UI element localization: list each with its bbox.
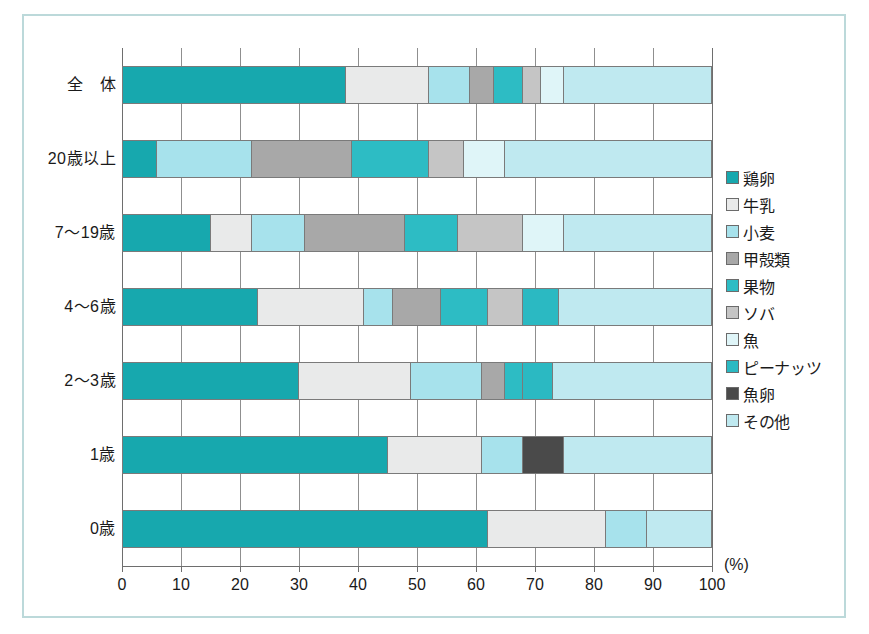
bar-row <box>122 140 712 178</box>
bar-segment <box>523 362 553 400</box>
legend-item[interactable]: 魚 <box>726 326 846 353</box>
bar-segment <box>523 436 564 474</box>
stacked-bar <box>122 362 712 400</box>
tick-80 <box>594 566 595 572</box>
bar-segment <box>488 510 606 548</box>
legend-swatch-icon <box>726 198 739 211</box>
tick-70 <box>535 566 536 572</box>
legend-label: 果物 <box>743 274 774 298</box>
y-axis-labels: 全 体20歳以上7～19歳4～6歳2～3歳1歳0歳 <box>24 48 116 566</box>
bar-segment <box>122 288 258 326</box>
bar-row <box>122 362 712 400</box>
legend-swatch-icon <box>726 225 739 238</box>
x-tick-label: 100 <box>699 576 726 594</box>
y-category-label: 1歳 <box>24 436 116 474</box>
legend-label: 魚卵 <box>743 382 774 406</box>
bar-segment <box>122 362 299 400</box>
x-tick-label: 10 <box>172 576 190 594</box>
stacked-bar <box>122 510 712 548</box>
tick-20 <box>240 566 241 572</box>
y-category-label: 20歳以上 <box>24 140 116 178</box>
bar-segment <box>488 288 523 326</box>
legend-item[interactable]: ソバ <box>726 299 846 326</box>
bar-segment <box>122 140 157 178</box>
bar-segment <box>122 214 211 252</box>
legend-swatch-icon <box>726 414 739 427</box>
y-category-label: 0歳 <box>24 510 116 548</box>
legend-swatch-icon <box>726 171 739 184</box>
legend-item[interactable]: 小麦 <box>726 218 846 245</box>
legend-item[interactable]: 魚卵 <box>726 380 846 407</box>
stacked-bar <box>122 288 712 326</box>
tick-50 <box>417 566 418 572</box>
legend-label: 魚 <box>743 328 759 352</box>
stacked-bar <box>122 436 712 474</box>
bar-segment <box>364 288 394 326</box>
bar-segment <box>553 362 712 400</box>
bar-segment <box>429 140 464 178</box>
bar-segment <box>211 214 252 252</box>
bar-segment <box>258 288 364 326</box>
bar-row <box>122 214 712 252</box>
legend-item[interactable]: ピーナッツ <box>726 353 846 380</box>
bar-segment <box>157 140 251 178</box>
y-category-label: 7～19歳 <box>24 214 116 252</box>
stacked-bar <box>122 140 712 178</box>
x-tick-label: 40 <box>349 576 367 594</box>
bar-row <box>122 66 712 104</box>
x-tick-label: 70 <box>526 576 544 594</box>
bar-segment <box>559 288 712 326</box>
bar-segment <box>470 66 494 104</box>
bar-segment <box>411 362 482 400</box>
legend-item[interactable]: 甲殻類 <box>726 245 846 272</box>
bar-segment <box>252 214 305 252</box>
legend-item[interactable]: その他 <box>726 407 846 434</box>
bar-segment <box>346 66 429 104</box>
bar-segment <box>523 214 564 252</box>
tick-10 <box>181 566 182 572</box>
bar-row <box>122 436 712 474</box>
bar-row <box>122 510 712 548</box>
bar-segment <box>405 214 458 252</box>
legend-swatch-icon <box>726 387 739 400</box>
legend-item[interactable]: 果物 <box>726 272 846 299</box>
tick-60 <box>476 566 477 572</box>
x-axis-unit-label: (%) <box>724 556 749 574</box>
stacked-bar <box>122 214 712 252</box>
bar-segment <box>523 66 541 104</box>
y-category-label: 2～3歳 <box>24 362 116 400</box>
bar-segment <box>482 436 523 474</box>
x-tick-label: 60 <box>467 576 485 594</box>
tick-0 <box>122 566 123 572</box>
legend-label: ソバ <box>743 301 774 325</box>
chart-frame: 全 体20歳以上7～19歳4～6歳2～3歳1歳0歳 01020304050607… <box>22 14 846 618</box>
legend-label: 甲殻類 <box>743 247 790 271</box>
x-tick-label: 20 <box>231 576 249 594</box>
plot-area <box>122 48 712 566</box>
x-tick-label: 80 <box>585 576 603 594</box>
x-tick-label: 30 <box>290 576 308 594</box>
bar-segment <box>252 140 352 178</box>
legend-item[interactable]: 牛乳 <box>726 191 846 218</box>
legend-label: ピーナッツ <box>743 355 822 379</box>
chart-canvas: 全 体20歳以上7～19歳4～6歳2～3歳1歳0歳 01020304050607… <box>24 16 844 616</box>
chart-legend: 鶏卵牛乳小麦甲殻類果物ソバ魚ピーナッツ魚卵その他 <box>726 164 846 434</box>
y-category-label: 全 体 <box>24 66 116 104</box>
x-axis-tick-labels: 0102030405060708090100 <box>122 576 713 600</box>
y-category-label: 4～6歳 <box>24 288 116 326</box>
bar-segment <box>429 66 470 104</box>
bar-segment <box>482 362 506 400</box>
bar-segment <box>441 288 488 326</box>
tick-90 <box>653 566 654 572</box>
bar-segment <box>352 140 429 178</box>
bar-segment <box>564 66 712 104</box>
legend-item[interactable]: 鶏卵 <box>726 164 846 191</box>
bar-segment <box>458 214 523 252</box>
tick-40 <box>358 566 359 572</box>
gridline-100 <box>712 48 713 566</box>
legend-label: 鶏卵 <box>743 166 774 190</box>
legend-label: 牛乳 <box>743 193 774 217</box>
x-tick-label: 0 <box>118 576 127 594</box>
legend-swatch-icon <box>726 279 739 292</box>
bar-segment <box>388 436 482 474</box>
